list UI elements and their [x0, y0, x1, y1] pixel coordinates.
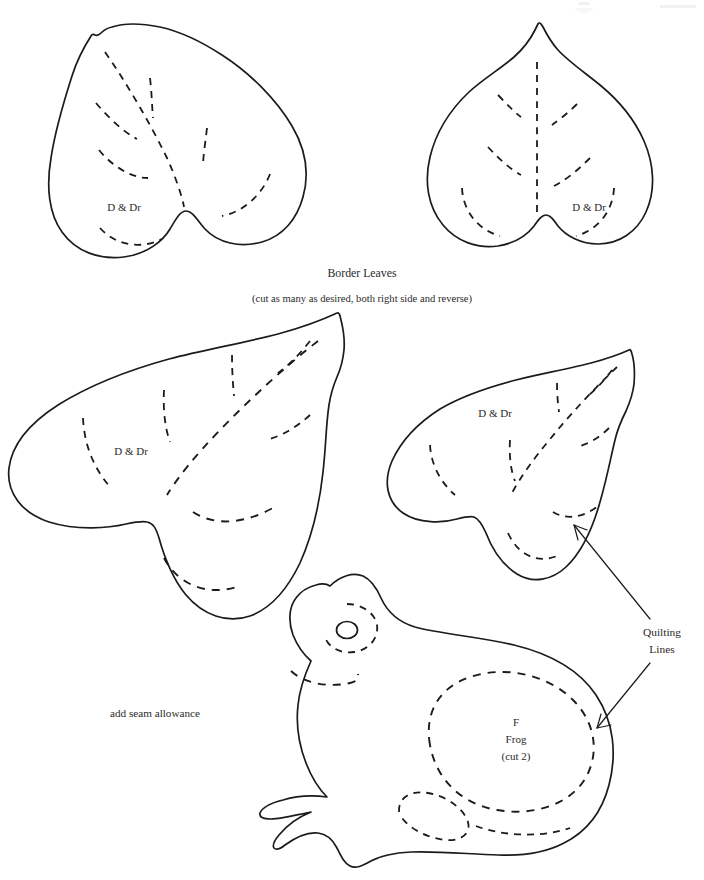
leaf-mid-right-midrib — [512, 367, 617, 493]
border-leaves-subtitle: (cut as many as desired, both right side… — [252, 293, 473, 305]
leaf-top-right-vein-left-upper — [498, 95, 521, 117]
leaf-top-right-outline — [427, 23, 652, 247]
piece-leaf-top-left[interactable]: D & Dr — [49, 24, 306, 258]
leaf-mid-right-arc-bottom — [508, 533, 557, 559]
leaf-mid-right-vein-apex — [557, 383, 559, 412]
leaf-large-left-arc-mid — [193, 505, 278, 521]
leaf-large-left-arc-bottom — [164, 558, 240, 590]
border-leaves-title: Border Leaves — [327, 266, 397, 280]
leaf-mid-right-vein-center — [510, 440, 515, 481]
leaf-top-left-label: D & Dr — [107, 201, 141, 213]
leaf-top-right-arc-bottom-left — [462, 188, 500, 236]
leaf-mid-right-outline — [387, 350, 634, 580]
leaf-top-left-midrib — [105, 52, 184, 207]
leaf-top-left-vein-upper-right — [150, 78, 153, 118]
leaf-mid-right-vein-left — [430, 445, 455, 495]
frog-eye — [337, 622, 358, 639]
quilting-lines-arrow-lower — [597, 663, 650, 728]
piece-frog[interactable]: F Frog (cut 2) — [260, 574, 613, 867]
quilting-lines-arrow-upper — [574, 525, 650, 619]
leaf-large-left-vein-right-mid — [266, 415, 310, 440]
frog-haunch-quilt-loop — [399, 792, 469, 840]
frog-label-line3: (cut 2) — [501, 750, 530, 763]
leaf-top-left-vein-left-lower — [99, 150, 148, 178]
leaf-mid-right-vein-right-upper — [589, 370, 612, 395]
leaf-large-left-label: D & Dr — [114, 445, 148, 457]
scan-artifact-marks — [574, 2, 696, 13]
leaf-top-left-vein-left-upper — [96, 103, 137, 139]
frog-mouth-quilt-line — [291, 671, 358, 685]
quilting-lines-label-line1: Quilting — [643, 626, 681, 638]
leaf-top-right-vein-right-upper — [552, 104, 577, 125]
leaf-top-left-vein-right — [203, 128, 207, 166]
frog-label-line1: F — [513, 716, 519, 728]
piece-leaf-large-left[interactable]: D & Dr — [9, 313, 345, 619]
leaf-top-left-vein-right-lower — [222, 174, 270, 216]
leaf-large-left-vein-left-lower — [83, 418, 111, 488]
leaf-large-left-vein-right-upper — [278, 341, 310, 373]
leaf-large-left-midrib — [167, 341, 318, 495]
leaf-mid-right-label: D & Dr — [478, 407, 512, 419]
quilting-lines-callout[interactable]: Quilting Lines — [574, 525, 681, 728]
leaf-top-left-outline — [49, 24, 306, 258]
leaf-top-left-arc-bottom-left — [100, 228, 162, 245]
quilting-lines-label-line2: Lines — [649, 643, 675, 655]
leaf-mid-right-arc-mid — [553, 506, 598, 517]
leaf-large-left-vein-left-upper — [164, 390, 170, 442]
frog-label-line2: Frog — [506, 733, 527, 745]
piece-leaf-top-right[interactable]: D & Dr — [427, 23, 652, 247]
frog-body-outline — [260, 574, 613, 867]
leaf-top-right-vein-left-mid — [488, 147, 521, 175]
leaf-large-left-outline — [9, 313, 345, 619]
seam-allowance-note: add seam allowance — [110, 707, 200, 719]
leaf-top-right-label: D & Dr — [572, 201, 606, 213]
leaf-large-left-vein-apex — [232, 355, 234, 396]
frog-lower-body-quilt-sweep — [476, 826, 570, 835]
pattern-sheet-page: D & Dr D & Dr Border Leaves (cut as many… — [0, 0, 704, 880]
leaf-mid-right-vein-right-mid — [580, 428, 609, 446]
piece-leaf-mid-right[interactable]: D & Dr — [387, 350, 634, 580]
frog-eye-quilt-ring — [325, 604, 377, 652]
leaf-top-right-vein-right-mid — [554, 158, 590, 186]
pattern-drawing-canvas: D & Dr D & Dr Border Leaves (cut as many… — [0, 0, 704, 880]
